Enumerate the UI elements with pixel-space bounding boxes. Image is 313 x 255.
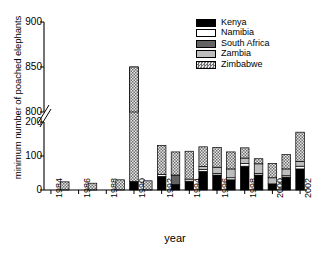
bar-segment [157, 145, 166, 174]
bar-segment [185, 181, 194, 190]
bar-segment [88, 183, 97, 190]
bar-segment [282, 177, 291, 190]
bar-segment [240, 148, 249, 158]
legend-swatch-icon [196, 19, 216, 27]
bar-segment-above-break [130, 67, 139, 112]
bar-segment [199, 167, 208, 170]
bar-segment [296, 132, 305, 161]
bar-segment [296, 169, 305, 190]
bar-segment [268, 184, 277, 190]
bar-segment [60, 182, 69, 190]
bar-segment [130, 182, 139, 191]
legend-item: Namibia [196, 29, 270, 38]
bar-segment [199, 171, 208, 190]
bar-segment [185, 151, 194, 179]
bar-segment [157, 176, 166, 190]
elephant-poaching-bar-chart: minimum number of poached elephants year… [0, 0, 313, 255]
legend-item: South Africa [196, 39, 270, 48]
bar-segment [268, 178, 277, 184]
bar-segment [282, 169, 291, 176]
legend: KenyaNamibiaSouth AfricaZambiaZimbabwe [196, 18, 270, 71]
bar-segment [116, 180, 125, 190]
bar-segment [268, 163, 277, 177]
bar-segment [213, 148, 222, 168]
bar-segment [227, 180, 236, 190]
bar-segment [254, 164, 263, 174]
legend-swatch-icon [196, 50, 216, 58]
legend-swatch-icon [196, 40, 216, 48]
bar-segment [171, 185, 180, 190]
legend-label: Zimbabwe [221, 59, 263, 71]
legend-swatch-icon [196, 29, 216, 37]
bar-segment [171, 152, 180, 175]
bar-segment [254, 159, 263, 164]
bar-segment [199, 147, 208, 167]
bar-segment [240, 166, 249, 190]
legend-item: Zimbabwe [196, 60, 270, 69]
legend-item: Kenya [196, 18, 270, 27]
bar-segment [254, 175, 263, 190]
bar-segment [296, 161, 305, 166]
bar-segment [144, 181, 153, 190]
bar-segment [213, 167, 222, 173]
bar-segment [240, 163, 249, 166]
bar-segment [227, 169, 236, 178]
bar-segment [213, 175, 222, 190]
legend-item: Zambia [196, 50, 270, 59]
bar-segment [240, 158, 249, 163]
bars-group [60, 67, 304, 190]
bar-segment [227, 152, 236, 169]
bar-segment [296, 166, 305, 169]
bar-segment [282, 155, 291, 169]
legend-swatch-icon [196, 61, 216, 69]
bar-segment [171, 175, 180, 185]
